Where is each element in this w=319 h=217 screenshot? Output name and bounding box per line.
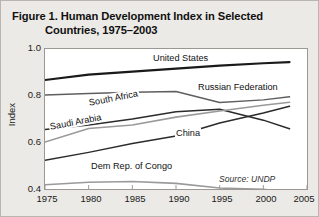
series-label-russian-federation: Russian Federation (197, 82, 279, 92)
y-tick-label-0-8: 0.8 (17, 90, 41, 100)
figure-title: Figure 1. Human Development Index in Sel… (12, 9, 302, 37)
x-tick-label-1985: 1985 (124, 193, 145, 204)
figure-title-line2: Countries, 1975–2003 (12, 23, 302, 37)
series-line-russian-federation (45, 91, 290, 102)
x-tick-label-2005: 2005 (293, 193, 314, 204)
x-tick-label-2000: 2000 (255, 193, 276, 204)
plot-area: United States Russian Federation South A… (44, 48, 308, 190)
figure-title-line1: Figure 1. Human Development Index in Sel… (12, 10, 263, 22)
y-tick-label-0-6: 0.6 (17, 137, 41, 147)
source-note: Source: UNDP (218, 174, 276, 184)
x-axis-tick-labels: 1975 1980 1985 1990 1995 2000 2005 (1, 193, 319, 209)
x-tick-label-1990: 1990 (168, 193, 189, 204)
x-tick-label-1975: 1975 (36, 193, 57, 204)
figure-container: Figure 1. Human Development Index in Sel… (0, 0, 319, 217)
series-label-china: China (175, 128, 201, 138)
series-label-dem-rep-congo: Dem Rep. of Congo (90, 161, 173, 171)
series-line-united-states (45, 62, 290, 80)
y-tick-label-1-0: 1.0 (17, 43, 41, 53)
x-tick-label-1995: 1995 (211, 193, 232, 204)
series-label-united-states: United States (152, 53, 209, 63)
y-axis-tick-labels: 1.0 0.8 0.6 0.4 (15, 1, 41, 217)
series-line-china (45, 106, 290, 160)
x-tick-label-1980: 1980 (80, 193, 101, 204)
